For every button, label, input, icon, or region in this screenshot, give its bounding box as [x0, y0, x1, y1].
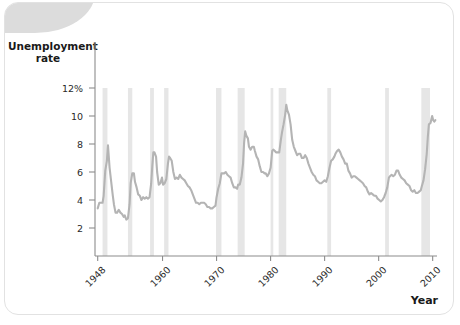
recession-band	[385, 88, 389, 256]
unemployment-rate-chart: Unemployment rate 12%108642 194819601970…	[0, 0, 460, 325]
y-tick-label: 8	[49, 139, 83, 150]
recession-band	[216, 88, 221, 256]
plot-canvas	[0, 0, 460, 325]
y-tick-label: 2	[49, 223, 83, 234]
recession-band	[128, 88, 132, 256]
recession-band	[271, 88, 274, 256]
y-tick-label: 10	[49, 111, 83, 122]
x-axis-title: Year	[411, 295, 438, 307]
y-tick-label: 6	[49, 167, 83, 178]
axes-group	[89, 42, 437, 261]
unemployment-rate-line	[98, 105, 436, 220]
unemployment-line-group	[98, 105, 436, 220]
y-tick-label: 4	[49, 195, 83, 206]
y-tick-label: 12%	[49, 83, 83, 94]
